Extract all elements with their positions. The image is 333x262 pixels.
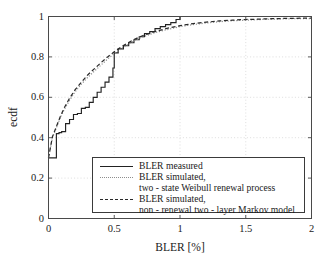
y-tick-label: 1 [20, 11, 44, 22]
x-tick-label: 0 [46, 224, 51, 235]
x-tick-label: 1 [177, 224, 182, 235]
legend-label: BLER simulated, [139, 193, 206, 204]
legend-label: BLER simulated, [139, 171, 206, 182]
legend-label: non - renewal two - layer Markov model [139, 204, 295, 215]
x-tick-label: 2 [309, 224, 314, 235]
x-tick-label: 1.5 [239, 224, 252, 235]
legend-box: BLER measuredBLER simulated,two - state … [92, 157, 305, 213]
x-axis-label: BLER [%] [155, 241, 205, 253]
x-tick-label: 0.5 [108, 224, 121, 235]
legend-sample-dashed [100, 199, 133, 200]
y-tick-label: 0.6 [20, 92, 44, 103]
y-axis-label: ecdf [7, 107, 19, 127]
y-tick-label: 0 [20, 213, 44, 224]
y-tick-label: 0.8 [20, 52, 44, 63]
legend-sample-solid [100, 166, 133, 167]
y-tick-label: 0.2 [20, 173, 44, 184]
y-tick-label: 0.4 [20, 132, 44, 143]
legend-label: two - state Weibull renewal process [139, 182, 275, 193]
legend-sample-dotted [100, 177, 133, 178]
legend-label: BLER measured [139, 160, 203, 171]
figure: 00.511.52 00.20.40.60.81 BLER [%] ecdf B… [0, 0, 333, 262]
